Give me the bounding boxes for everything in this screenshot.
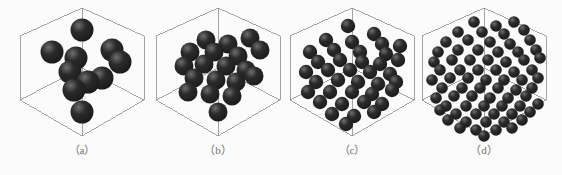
panel-a: （a）	[12, 0, 152, 175]
particle-sphere	[498, 28, 510, 40]
particle-sphere	[301, 85, 315, 99]
figure-container: （a） （b） （c） （d）	[0, 0, 562, 175]
cube-render-d	[414, 0, 554, 145]
particle-sphere	[462, 34, 474, 46]
particle-sphere	[363, 65, 377, 79]
particle-sphere	[41, 41, 64, 64]
particle-sphere	[524, 34, 536, 46]
particle-sphere	[518, 24, 530, 36]
particle-sphere	[508, 16, 520, 28]
particle-sphere	[345, 85, 359, 99]
particle-sphere	[436, 82, 448, 94]
panel-c: （c）	[282, 0, 422, 175]
particle-sphere	[71, 19, 94, 42]
panel-caption-c: （c）	[282, 143, 422, 157]
particle-sphere	[534, 52, 546, 64]
particle-sphere	[468, 16, 480, 28]
particle-sphere	[331, 73, 345, 87]
particle-sphere	[470, 108, 482, 120]
particle-sphere	[462, 72, 474, 84]
particle-sphere	[179, 83, 198, 102]
particle-sphere	[516, 114, 528, 126]
particle-sphere	[520, 90, 532, 102]
cube-wireframe-a	[12, 0, 152, 145]
particle-sphere	[430, 92, 442, 104]
particle-sphere	[478, 130, 490, 142]
particle-sphere	[454, 122, 466, 134]
cube-render-b	[148, 0, 288, 145]
particle-sphere	[490, 64, 502, 76]
particle-sphere	[452, 44, 464, 56]
particle-sphere	[223, 87, 242, 106]
particle-sphere	[434, 64, 446, 76]
particle-group-d	[426, 16, 546, 142]
particle-sphere	[325, 107, 339, 121]
particle-sphere	[532, 72, 544, 84]
cube-wireframe-d	[414, 0, 554, 145]
particle-sphere	[518, 54, 530, 66]
particle-sphere	[464, 54, 476, 66]
particle-sphere	[391, 53, 405, 67]
particle-sphere	[500, 56, 512, 68]
panel-caption-b: （b）	[148, 143, 288, 157]
particle-sphere	[452, 26, 464, 38]
particle-sphere	[71, 101, 94, 124]
panel-b: （b）	[148, 0, 288, 175]
particle-sphere	[63, 79, 86, 102]
particle-sphere	[506, 122, 518, 134]
particle-sphere	[492, 82, 504, 94]
particle-sphere	[367, 105, 381, 119]
cube-wireframe-c	[282, 0, 422, 145]
particle-sphere	[434, 104, 446, 116]
particle-sphere	[432, 46, 444, 58]
particle-sphere	[476, 26, 488, 38]
particle-sphere	[480, 116, 492, 128]
particle-sphere	[341, 19, 355, 33]
particle-sphere	[448, 90, 460, 102]
cube-render-a	[12, 0, 152, 145]
particle-sphere	[245, 67, 264, 86]
particle-sphere	[446, 54, 458, 66]
panel-d: （d）	[414, 0, 554, 175]
particle-sphere	[426, 74, 438, 86]
particle-sphere	[472, 64, 484, 76]
particle-sphere	[385, 83, 399, 97]
particle-sphere	[442, 114, 454, 126]
particle-sphere	[440, 36, 452, 48]
particle-sphere	[343, 63, 357, 77]
particle-sphere	[460, 100, 472, 112]
particle-group-a	[41, 19, 132, 124]
panel-caption-d: （d）	[414, 143, 554, 157]
particle-group-b	[175, 29, 270, 122]
particle-sphere	[472, 44, 484, 56]
cube-wireframe-b	[148, 0, 288, 145]
particle-sphere	[484, 36, 496, 48]
particle-sphere	[201, 85, 220, 104]
cube-render-c	[282, 0, 422, 145]
particle-sphere	[209, 103, 228, 122]
particle-sphere	[251, 41, 270, 60]
particle-sphere	[339, 117, 353, 131]
particle-sphere	[109, 51, 132, 74]
particle-sphere	[444, 72, 456, 84]
particle-sphere	[482, 54, 494, 66]
particle-sphere	[516, 74, 528, 86]
particle-sphere	[492, 46, 504, 58]
particle-sphere	[490, 124, 502, 136]
particle-sphere	[313, 95, 327, 109]
particle-sphere	[466, 90, 478, 102]
panel-caption-a: （a）	[12, 143, 152, 157]
particle-sphere	[393, 39, 407, 53]
